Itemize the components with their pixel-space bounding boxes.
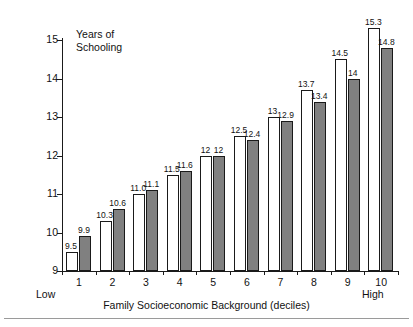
bar-white-decile-9 [335,59,347,271]
y-axis-tick-label: 9 [52,264,58,277]
bar-value-label: 11.1 [140,179,162,189]
x-axis-tick-mark [163,271,164,275]
x-axis-tick-mark [398,271,399,275]
bar-value-label: 12.4 [241,129,263,139]
bar-value-label: 14.8 [375,37,397,47]
x-axis-tick-label-7: 7 [265,276,295,288]
x-axis-tick-mark [331,271,332,275]
bar-group: 11.511.6 [165,40,197,271]
bar-gray-decile-7 [281,121,293,271]
bar-group: 14.514 [333,40,365,271]
y-axis-title-line-1: Years of [76,28,156,41]
bar-group: 11.011.1 [131,40,163,271]
bar-value-label: 9.9 [73,225,95,235]
bar-value-label: 9.5 [60,241,82,251]
x-axis-tick-mark [364,271,365,275]
x-axis-tick-label-6: 6 [232,276,262,288]
bar-white-decile-7 [268,117,280,271]
bar-white-decile-6 [234,136,246,271]
bar-gray-decile-10 [381,48,393,271]
bar-gray-decile-5 [213,156,225,272]
x-axis-tick-mark [297,271,298,275]
x-axis-tick-label-10: 10 [366,276,396,288]
y-axis-tick-label: 15 [46,33,58,46]
bar-value-label: 11.6 [174,160,196,170]
x-axis-tick-label-8: 8 [299,276,329,288]
x-axis-tick-mark [96,271,97,275]
bar-group: 1212 [198,40,230,271]
bar-white-decile-4 [167,175,179,271]
bar-value-label: 10.3 [94,210,116,220]
plot-area: 91011121314159.59.910.310.611.011.111.51… [62,40,398,271]
bar-group: 9.59.9 [64,40,96,271]
y-axis-tick-label: 12 [46,149,58,162]
y-axis-tick-label: 10 [46,226,58,239]
bottom-divider [4,318,409,319]
bar-gray-decile-3 [146,190,158,271]
x-axis-tick-label-3: 3 [131,276,161,288]
bar-gray-decile-9 [348,79,360,272]
bar-value-label: 14 [342,68,364,78]
x-axis-tick-mark [264,271,265,275]
y-axis-tick-label: 13 [46,110,58,123]
bar-value-label: 10.6 [107,198,129,208]
chart-figure: Years of Schooling 91011121314159.59.910… [0,0,413,327]
bar-group: 1312.9 [266,40,298,271]
bar-value-label: 13.7 [295,79,317,89]
x-axis-tick-label-9: 9 [333,276,363,288]
y-axis-tick-label: 11 [47,187,58,200]
bar-gray-decile-6 [247,140,259,271]
bar-white-decile-1 [66,252,78,271]
x-axis-tick-label-1: 1 [64,276,94,288]
bar-group: 15.314.8 [366,40,398,271]
x-axis-tick-mark [62,271,63,275]
bar-white-decile-3 [133,194,145,271]
bar-white-decile-5 [200,156,212,272]
bar-group: 13.713.4 [299,40,331,271]
x-axis-tick-label-2: 2 [97,276,127,288]
bar-value-label: 12.9 [275,110,297,120]
bar-value-label: 12 [207,145,229,155]
x-axis-title: Family Socioeconomic Background (deciles… [0,299,413,311]
bar-gray-decile-8 [314,102,326,271]
x-axis-tick-mark [129,271,130,275]
bar-white-decile-8 [301,90,313,271]
bar-value-label: 15.3 [362,17,384,27]
bar-value-label: 13.4 [308,91,330,101]
bar-group: 10.310.6 [98,40,130,271]
bar-white-decile-2 [100,221,112,271]
x-axis-tick-label-4: 4 [165,276,195,288]
bar-value-label: 14.5 [329,48,351,58]
bar-white-decile-10 [368,28,380,271]
bar-gray-decile-4 [180,171,192,271]
x-axis-tick-label-5: 5 [198,276,228,288]
x-axis-tick-mark [230,271,231,275]
y-axis-tick-label: 14 [46,72,58,85]
x-axis-tick-mark [196,271,197,275]
bar-group: 12.512.4 [232,40,264,271]
